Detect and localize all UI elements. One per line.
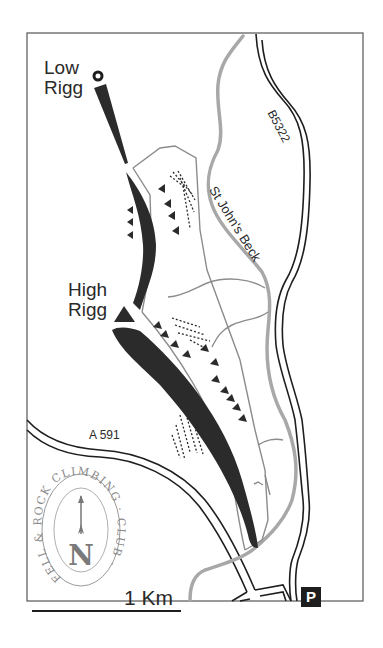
high-rigg-label: High Rigg [68,280,107,320]
high-rigg-label-line2: Rigg [68,300,107,320]
low-rigg-label-line1: Low [44,58,83,78]
high-rigg-label-line1: High [68,280,107,300]
high-rigg-north-crag [126,172,156,310]
logo-north-letter: N [68,539,94,572]
high-rigg-summit-icon [114,306,135,322]
high-rigg-south-crag [112,327,258,548]
low-rigg-crag [94,84,128,164]
low-rigg-summit-icon [94,72,102,80]
scale-bar-label: 1 Km [124,587,173,608]
low-rigg-label-line2: Rigg [44,78,83,98]
low-rigg-label: Low Rigg [44,58,83,98]
a591-label: A 591 [89,429,120,441]
parking-icon: P [301,587,321,607]
junction-roads [232,585,291,601]
